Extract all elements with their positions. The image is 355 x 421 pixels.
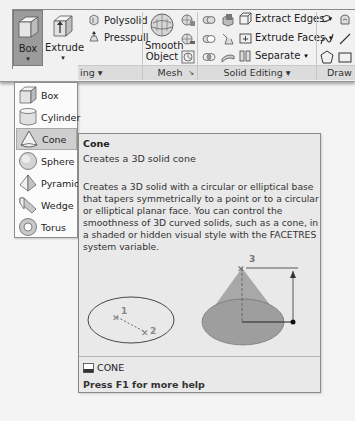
panel-launcher-icon[interactable]: ↘ (188, 66, 194, 80)
extract-edges-button[interactable]: Extract Edges ▾ (239, 12, 332, 25)
add-crease-icon[interactable] (180, 31, 196, 47)
command-line-icon (83, 363, 94, 373)
refine-mesh-icon[interactable] (180, 12, 196, 28)
polysolid-button[interactable]: Polysolid (88, 14, 148, 26)
extract-edges-icon (239, 12, 252, 25)
tooltip-help-hint: Press F1 for more help (83, 379, 205, 390)
spline-icon[interactable] (319, 31, 335, 47)
line-icon[interactable] (337, 31, 353, 47)
point-2-label: 2 (150, 326, 156, 336)
draw-panel-title[interactable]: Draw (317, 65, 355, 80)
extract-edges-label: Extract Edges (255, 13, 324, 24)
chevron-down-icon: ▾ (45, 53, 81, 64)
cone-diagram: ✕ 1 ✕ 2 ✕ 3 (79, 244, 322, 354)
solid-editing-panel-title[interactable]: Solid Editing ▾ (198, 65, 316, 80)
cone-tooltip: Cone Creates a 3D solid cone Creates a 3… (78, 133, 321, 393)
smooth-object-label: Smooth Object (145, 40, 179, 62)
box-icon (15, 14, 41, 40)
box-icon (18, 85, 38, 105)
extrude-faces-label: Extrude Faces (255, 32, 325, 43)
torus-icon (18, 217, 38, 237)
union-icon[interactable] (201, 12, 217, 28)
presspull-icon (88, 31, 100, 43)
chevron-down-icon: ▾ (304, 52, 308, 60)
menu-item-box[interactable]: Box (16, 84, 77, 106)
separate-icon (239, 49, 252, 62)
smooth-object-button[interactable]: Smooth Object (145, 10, 179, 66)
polygon-icon[interactable] (319, 49, 335, 65)
thicken-icon[interactable] (220, 49, 236, 65)
point-3-label: 3 (249, 254, 255, 264)
convert-mesh-icon[interactable] (180, 49, 196, 65)
menu-item-cone[interactable]: Cone (16, 128, 77, 150)
box-button-label: Box (14, 43, 42, 54)
extrude-icon (50, 13, 76, 39)
tooltip-description: Creates a 3D solid with a circular or el… (83, 181, 319, 253)
svg-text:✕: ✕ (141, 328, 149, 338)
menu-item-cylinder[interactable]: Cylinder (16, 106, 77, 128)
wedge-icon (18, 195, 38, 215)
subtract-icon[interactable] (201, 31, 217, 47)
cylinder-icon (18, 107, 38, 127)
tooltip-title: Cone (83, 138, 110, 149)
menu-item-pyramid[interactable]: Pyramid (16, 172, 77, 194)
svg-text:✕: ✕ (112, 313, 120, 323)
sphere-icon (18, 151, 38, 171)
planar-surface-icon[interactable] (337, 12, 353, 28)
primitive-dropdown-menu: Box Cylinder Cone Sphere Pyramid Wedge T… (14, 82, 78, 238)
extrude-button[interactable]: Extrude ▾ (45, 10, 81, 66)
point-1-label: 1 (121, 306, 127, 316)
smooth-object-icon (148, 12, 176, 38)
polysolid-icon (88, 14, 100, 26)
presspull-button[interactable]: Presspull (88, 31, 149, 43)
mesh-panel-title[interactable]: Mesh ↘ (143, 65, 197, 80)
intersect-icon[interactable] (201, 49, 217, 65)
cone-icon (19, 129, 39, 149)
separate-button[interactable]: Separate ▾ (239, 49, 308, 62)
svg-text:✕: ✕ (237, 264, 245, 274)
tooltip-command: CONE (83, 362, 124, 373)
tooltip-subtitle: Creates a 3D solid cone (83, 153, 196, 164)
separate-label: Separate (255, 50, 300, 61)
chevron-down-icon: ▾ (14, 54, 42, 65)
modeling-panel-title[interactable]: ing ▾ (78, 65, 142, 80)
ribbon: Box ▾ Extrude ▾ Polysolid Presspull ing … (0, 0, 355, 82)
menu-item-torus[interactable]: Torus (16, 216, 77, 238)
box-button[interactable]: Box ▾ (13, 10, 43, 66)
pyramid-icon (18, 173, 38, 193)
tooltip-divider (79, 356, 320, 357)
menu-item-wedge[interactable]: Wedge (16, 194, 77, 216)
rectangle-icon[interactable] (337, 49, 353, 65)
menu-item-sphere[interactable]: Sphere (16, 150, 77, 172)
slice-icon[interactable] (220, 31, 236, 47)
helix-icon[interactable] (319, 12, 335, 28)
extrude-button-label: Extrude (45, 42, 81, 53)
extrude-faces-icon (239, 31, 252, 44)
interfere-icon[interactable] (220, 12, 236, 28)
